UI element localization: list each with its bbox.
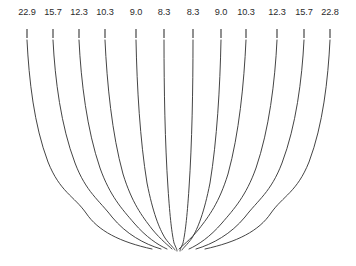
streamline-1 xyxy=(27,40,152,249)
tick-label-0: 22.9 xyxy=(18,7,35,17)
streamline-9 xyxy=(179,40,246,249)
tick-labels-group: 22.915.712.310.39.08.38.39.010.312.315.7… xyxy=(18,7,338,17)
streamline-8 xyxy=(182,40,221,250)
tick-marks-group xyxy=(27,29,330,38)
streamline-6 xyxy=(164,40,177,251)
tick-label-9: 12.3 xyxy=(268,7,285,17)
figure-canvas: 22.915.712.310.39.08.38.39.010.312.315.7… xyxy=(0,0,356,266)
streamline-11 xyxy=(196,40,304,249)
streamline-7 xyxy=(180,40,193,251)
tick-label-10: 15.7 xyxy=(295,7,312,17)
tick-label-7: 9.0 xyxy=(215,7,227,17)
tick-label-4: 9.0 xyxy=(130,7,142,17)
tick-label-3: 10.3 xyxy=(96,7,113,17)
tick-label-8: 10.3 xyxy=(237,7,254,17)
tick-label-5: 8.3 xyxy=(158,7,170,17)
tick-label-11: 22.8 xyxy=(321,7,338,17)
streamline-5 xyxy=(136,40,175,250)
streamline-12 xyxy=(205,40,330,249)
streamline-10 xyxy=(189,40,277,249)
tick-label-6: 8.3 xyxy=(187,7,199,17)
tick-label-1: 15.7 xyxy=(44,7,61,17)
streamline-3 xyxy=(79,40,167,249)
streamline-4 xyxy=(105,40,172,249)
streamlines-group xyxy=(27,40,330,251)
tick-label-2: 12.3 xyxy=(70,7,87,17)
